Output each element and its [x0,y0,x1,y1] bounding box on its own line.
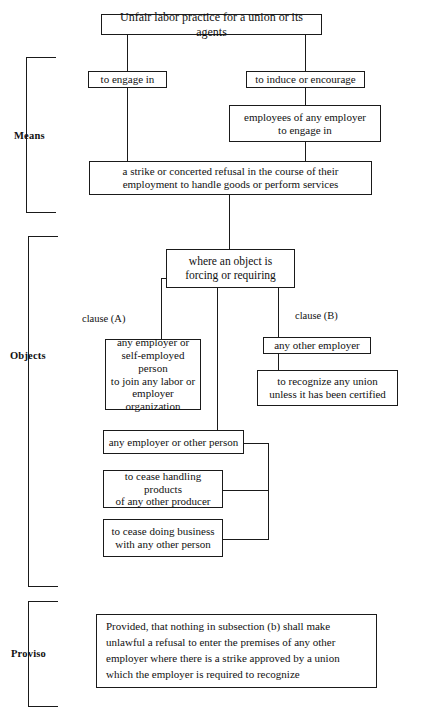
box-object-line-1: where an object is [171,255,290,269]
means-bracket-top-tick [26,57,56,58]
box-proviso-line-2: unlawful a refusal to enter the premises… [106,635,367,651]
connector-induce-to-employees [305,87,306,105]
bracket-label-proviso: Proviso [11,648,46,659]
proviso-bracket-bottom-tick [28,706,58,707]
label-clause-a: clause (A) [82,313,125,324]
connector-strike-to-object [229,194,230,249]
connector-lower-group-spine [268,443,269,540]
box-proviso-line-4: which the employer is required to recogn… [106,667,367,683]
connector-object-to-clause-a [161,278,162,340]
connector-cease-business-right-stub [222,539,269,540]
box-where-an-object-is[interactable]: where an object is forcing or requiring [166,249,295,288]
box-to-cease-handling-products[interactable]: to cease handling products of any other … [103,470,223,508]
box-to-recognize-any-union[interactable]: to recognize any union unless it has bee… [257,370,398,406]
box-clause-b-text: any other employer [268,339,366,352]
connector-cease-handling-right-stub [222,490,269,491]
objects-bracket-spine [28,236,29,587]
box-to-engage-in[interactable]: to engage in [88,71,167,88]
connector-object-to-any-employer [217,288,218,430]
box-strike-line-1: a strike or concerted refusal in the cou… [94,165,367,178]
box-cease-handling-line-2: of any other producer [108,495,218,508]
box-cease-handling-line-1: to cease handling products [108,470,218,496]
box-recognize-line-1: to recognize any union [262,375,393,388]
box-clause-a-line-1: any employer or [110,336,196,349]
connector-engage-to-strike [127,87,128,162]
box-employees-line-2: to engage in [234,124,376,137]
box-employees-of-any-employer[interactable]: employees of any employer to engage in [229,105,381,142]
box-clause-a-line-4: employer organization [110,387,196,413]
box-proviso-line-3: employer where there is a strike approve… [106,651,367,667]
box-clause-b-target[interactable]: any other employer [263,337,371,354]
box-recognize-line-2: unless it has been certified [262,388,393,401]
connector-root-to-induce [305,34,306,71]
proviso-bracket-top-tick [28,601,58,602]
box-to-engage-in-text: to engage in [93,73,162,86]
box-strike-line-2: employment to handle goods or perform se… [94,178,367,191]
box-any-employer-or-other-person[interactable]: any employer or other person [103,430,244,454]
box-object-line-2: forcing or requiring [171,269,290,283]
box-any-employer-text: any employer or other person [108,436,239,449]
box-to-cease-doing-business[interactable]: to cease doing business with any other p… [103,519,223,557]
flowchart-diagram: Means Objects Proviso Unfair labor pract… [0,0,423,719]
objects-bracket-top-tick [28,236,58,237]
connector-any-employer-right-stub [243,443,269,444]
box-clause-a-line-3: to join any labor or [110,375,196,388]
box-root-text: Unfair labor practice for a union or its… [106,10,317,38]
means-bracket-bottom-tick [26,212,56,213]
connector-object-to-clause-b [278,288,279,338]
box-clause-a-target[interactable]: any employer or self-employed person to … [105,339,201,410]
box-clause-a-line-2: self-employed person [110,349,196,375]
box-strike-or-concerted-refusal[interactable]: a strike or concerted refusal in the cou… [89,161,372,195]
connector-clause-b-to-recognize [278,353,279,371]
objects-bracket-bottom-tick [28,586,58,587]
box-root[interactable]: Unfair labor practice for a union or its… [101,14,322,35]
label-clause-b: clause (B) [295,310,338,321]
box-employees-line-1: employees of any employer [234,111,376,124]
box-to-induce-or-encourage[interactable]: to induce or encourage [246,71,365,88]
box-to-induce-or-encourage-text: to induce or encourage [251,73,360,86]
bracket-label-objects: Objects [10,350,46,361]
box-proviso[interactable]: Provided, that nothing in subsection (b)… [96,614,377,688]
box-cease-business-line-2: with any other person [108,538,218,551]
connector-root-to-engage [127,34,128,71]
box-cease-business-line-1: to cease doing business [108,525,218,538]
box-proviso-line-1: Provided, that nothing in subsection (b)… [106,619,367,635]
connector-employees-to-strike [305,141,306,162]
bracket-label-means: Means [14,130,45,141]
